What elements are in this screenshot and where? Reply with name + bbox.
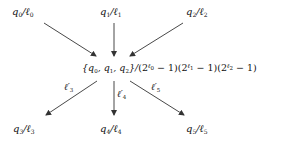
node-q0: q0/ℓ0	[12, 7, 34, 18]
factor-2: (2ℓ2 − 1)	[217, 62, 257, 73]
factor-1: (2ℓ1 − 1)	[178, 62, 218, 73]
node-q1: q1/ℓ1	[100, 7, 122, 18]
ell-subscript: 5	[204, 128, 208, 135]
factor-0: (2ℓ0 − 1)	[138, 62, 178, 73]
edge-label-4: ℓ′4	[117, 90, 126, 101]
factor-base: (2	[217, 62, 227, 73]
factor-base: (2	[138, 62, 148, 73]
ell-subscript: 4	[118, 128, 122, 135]
node-q3: q3/ℓ3	[13, 124, 35, 135]
ell-subscript: 1	[118, 11, 122, 18]
ell-subscript: 5	[157, 87, 161, 93]
node-q2: q2/ℓ2	[186, 7, 208, 18]
edge-label-3: ℓ′3	[64, 83, 73, 94]
factor-tail: − 1)	[233, 62, 257, 73]
arrow-q0-to-center	[44, 23, 96, 56]
node-q4: q4/ℓ4	[100, 124, 122, 135]
ell-subscript: 4	[123, 94, 127, 100]
ell-subscript: 0	[30, 11, 34, 18]
node-q5: q5/ℓ5	[186, 124, 208, 135]
factor-tail: − 1)	[154, 62, 178, 73]
ell-subscript: 3	[70, 87, 74, 93]
brace-close: }/	[129, 62, 138, 73]
ell-subscript: 2	[204, 11, 208, 18]
arrow-q2-to-center	[130, 23, 183, 56]
factor-tail: − 1)	[193, 62, 217, 73]
center-node: {q0, q1, q2}/(2ℓ0 − 1)(2ℓ1 − 1)(2ℓ2 − 1)	[82, 63, 257, 75]
edge-label-5: ℓ′5	[151, 83, 160, 94]
ell-subscript: 3	[31, 128, 35, 135]
factor-base: (2	[178, 62, 188, 73]
